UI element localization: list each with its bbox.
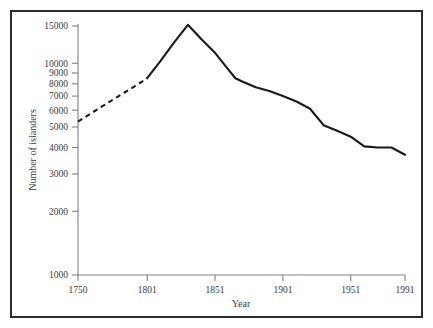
y-tick-label: 7000 xyxy=(49,91,68,101)
y-tick-label: 8000 xyxy=(49,79,68,89)
y-tick-label: 6000 xyxy=(49,106,68,116)
figure-root: 1000 2000 3000 4000 5000 6000 7000 8000 … xyxy=(0,0,433,328)
y-tick-label: 2000 xyxy=(49,207,68,217)
y-tick-label-max: 15000 xyxy=(44,21,68,31)
y-tick-top: 15000 xyxy=(44,21,78,31)
x-tick-label: 1951 xyxy=(341,285,360,295)
x-tick-labels: 1750 1801 1851 1901 1951 1991 xyxy=(69,285,415,295)
x-tick-label: 1991 xyxy=(396,285,415,295)
series-line-recorded xyxy=(147,25,405,155)
y-tick-marks xyxy=(72,0,78,275)
y-tick-label: 9000 xyxy=(49,68,68,78)
x-tick-label: 1750 xyxy=(69,285,88,295)
x-tick-label: 1851 xyxy=(206,285,225,295)
y-tick-labels: 1000 2000 3000 4000 5000 6000 7000 8000 … xyxy=(44,59,68,281)
line-chart-plot: 1000 2000 3000 4000 5000 6000 7000 8000 … xyxy=(0,0,433,328)
y-tick-label: 10000 xyxy=(44,59,68,69)
series-line-estimated xyxy=(78,78,147,121)
y-tick-label: 4000 xyxy=(49,143,68,153)
x-axis-title: Year xyxy=(232,298,251,309)
x-tick-marks xyxy=(78,275,405,281)
y-tick-label: 5000 xyxy=(49,122,68,132)
y-axis-title: Number of islanders xyxy=(27,109,38,191)
x-tick-label: 1901 xyxy=(273,285,292,295)
y-tick-label: 3000 xyxy=(49,169,68,179)
y-tick-label: 1000 xyxy=(49,270,68,280)
x-tick-label: 1801 xyxy=(138,285,157,295)
